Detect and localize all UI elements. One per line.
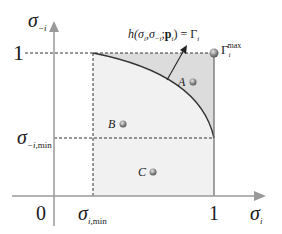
origin-label: 0 — [36, 203, 46, 223]
point-b-label: B — [108, 118, 115, 130]
x-axis-arrow-icon — [254, 191, 266, 201]
y-symbol: σ — [28, 9, 38, 31]
point-a-label: A — [178, 76, 185, 88]
point-a — [190, 79, 197, 86]
xmin-symbol: σ — [78, 202, 88, 224]
point-c-label: C — [138, 166, 146, 178]
gamma-eq: ) = Γ — [173, 27, 197, 41]
gamma-max-sup: max — [227, 41, 241, 50]
arg2: ,σ — [146, 27, 155, 41]
ymin-symbol: σ — [17, 126, 27, 148]
ymin-sub2: min — [38, 140, 52, 150]
feasibility-region-diagram: σ−i 1 σ−i,min 0 σi,min 1 σi h(σi,σ−i;pi)… — [0, 0, 282, 234]
x-tick-min: σi,min — [78, 203, 107, 226]
point-c — [150, 169, 157, 176]
x-tick-one: 1 — [209, 203, 219, 223]
x-symbol: σ — [250, 202, 260, 224]
point-b — [120, 121, 127, 128]
gamma-max-label: Γimax — [221, 42, 241, 59]
curve-label: h(σi,σ−i;pi) = Γi — [128, 28, 199, 43]
y-tick-one: 1 — [13, 42, 24, 64]
ymin-sub: −i, — [27, 140, 38, 150]
x-axis-label: σi — [250, 203, 262, 226]
y-axis-label: σ−i — [28, 10, 46, 33]
y-sub: −i — [38, 23, 47, 33]
x-sub: i — [260, 216, 263, 226]
gamma-sub: i — [197, 35, 199, 43]
xmin-sub2: min — [93, 216, 107, 226]
gamma-max-point — [210, 49, 219, 58]
h-func: h( — [128, 27, 138, 41]
gamma-max-sub: i — [229, 51, 231, 59]
y-tick-min: σ−i,min — [17, 127, 52, 150]
y-axis-arrow-icon — [49, 21, 59, 32]
p-vector: p — [165, 27, 172, 41]
